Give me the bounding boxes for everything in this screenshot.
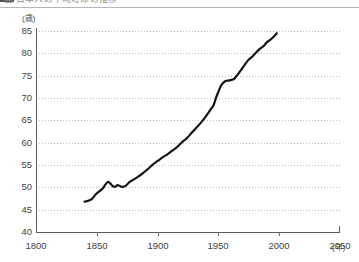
y-tick-label: 65 (6, 115, 32, 125)
y-tick-label: 80 (6, 48, 32, 58)
y-axis-line (36, 28, 37, 233)
y-tick-label: 75 (6, 71, 32, 81)
y-tick-label: 60 (6, 138, 32, 148)
y-tick-50: 50 (4, 182, 32, 192)
y-tick-70: 70 (4, 93, 32, 103)
gridline-70 (36, 98, 340, 99)
gridline-85 (36, 31, 340, 32)
x-tickmark-1850 (97, 232, 98, 236)
x-tick-label-1850: 1850 (77, 240, 117, 251)
gridline-80 (36, 53, 340, 54)
y-tick-55: 55 (4, 160, 32, 170)
plot-area: (歳) 40455055606570758085 180018501900195… (0, 0, 359, 262)
y-axis-left-stub (36, 226, 37, 233)
y-tick-65: 65 (4, 115, 32, 125)
gridline-45 (36, 210, 340, 211)
x-tick-label-1800: 1800 (16, 240, 56, 251)
y-tick-85: 85 (4, 26, 32, 36)
x-tick-label-2000: 2000 (259, 240, 299, 251)
y-tick-label: 70 (6, 93, 32, 103)
y-axis-unit-label: (歳) (22, 14, 35, 23)
x-tickmark-2000 (279, 232, 280, 236)
x-axis-line (36, 232, 340, 233)
life-expectancy-line (85, 33, 277, 201)
gridline-60 (36, 143, 340, 144)
x-tick-label-1950: 1950 (198, 240, 238, 251)
y-tick-label: 85 (6, 26, 32, 36)
gridline-75 (36, 76, 340, 77)
gridline-55 (36, 165, 340, 166)
y-tick-40: 40 (4, 227, 32, 237)
x-axis-unit-label: (年) (332, 243, 345, 252)
y-tick-75: 75 (4, 71, 32, 81)
y-tick-label: 50 (6, 182, 32, 192)
x-axis-right-stub (339, 226, 340, 233)
x-tickmark-1900 (158, 232, 159, 236)
y-tick-label: 45 (6, 205, 32, 215)
y-tick-label: 55 (6, 160, 32, 170)
y-tick-label: 40 (6, 227, 32, 237)
x-tickmark-1950 (218, 232, 219, 236)
x-tick-label-1900: 1900 (138, 240, 178, 251)
y-tick-60: 60 (4, 138, 32, 148)
gridline-65 (36, 120, 340, 121)
chart-root: 図 日本人の平均寿命の推移 (歳) 40455055606570758085 1… (0, 0, 359, 262)
y-tick-45: 45 (4, 205, 32, 215)
y-tick-80: 80 (4, 48, 32, 58)
gridline-50 (36, 187, 340, 188)
series-layer (0, 0, 359, 262)
